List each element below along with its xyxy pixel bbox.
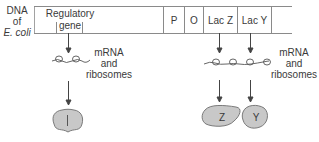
left-transcript-line1: mRNA (84, 47, 134, 58)
segment-promoter: P (164, 15, 184, 26)
left-transcript-line3: ribosomes (84, 69, 134, 80)
dna-label: DNA of E. coli (2, 5, 32, 38)
segment-lacy: Lac Y (238, 15, 271, 26)
left-transcript-label: mRNA and ribosomes (84, 47, 134, 80)
regulatory-gene-line2: gene (44, 20, 96, 31)
left-transcript-line2: and (84, 58, 134, 69)
regulatory-gene-line1: Regulatory (44, 8, 96, 19)
regulatory-gene-label: Regulatory gene (44, 8, 96, 31)
right-mrna-strand (204, 59, 271, 65)
dna-label-line3: E. coli (2, 27, 32, 38)
dna-label-line2: of (2, 16, 32, 27)
segment-operator: O (185, 15, 203, 26)
right-transcript-line2: and (268, 58, 319, 69)
segment-lacz: Lac Z (204, 15, 237, 26)
dna-label-line1: DNA (2, 5, 32, 16)
right-transcript-line3: ribosomes (268, 69, 319, 80)
y-protein-label: Y (245, 112, 267, 123)
right-transcript-line1: mRNA (268, 47, 319, 58)
right-transcript-label: mRNA and ribosomes (268, 47, 319, 80)
z-protein-label: Z (208, 112, 236, 123)
translation-arrows (66, 80, 253, 105)
